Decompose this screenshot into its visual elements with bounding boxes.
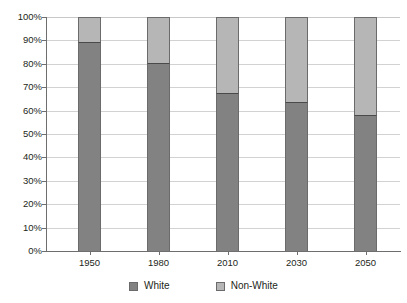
bar-group — [147, 17, 170, 251]
bar-group — [285, 17, 308, 251]
y-axis-label-70: 70% — [2, 82, 42, 92]
x-axis-line — [46, 251, 401, 252]
y-axis-label-40: 40% — [2, 153, 42, 163]
y-axis-label-60: 60% — [2, 106, 42, 116]
legend-swatch-icon-non-white — [216, 282, 225, 291]
legend-label-white: White — [144, 281, 170, 291]
bar-segment-white[interactable] — [216, 93, 239, 251]
y-axis-line — [46, 17, 47, 252]
legend-label-non-white: Non-White — [231, 281, 278, 291]
bar-group — [78, 17, 101, 251]
bars-layer — [46, 17, 400, 251]
legend-item-white[interactable]: White — [129, 281, 170, 291]
chart-container: 100% 90% 80% 70% 60% 50% 40% 30% 20% 10%… — [0, 0, 407, 303]
legend-swatch-icon-white — [129, 282, 138, 291]
x-tick-1950 — [90, 251, 91, 255]
bar-segment-non-white[interactable] — [78, 17, 101, 42]
y-axis-label-100: 100% — [2, 12, 42, 22]
x-axis-label-1950: 1950 — [55, 258, 125, 268]
x-tick-2030 — [297, 251, 298, 255]
x-tick-2010 — [228, 251, 229, 255]
bar-segment-non-white[interactable] — [216, 17, 239, 93]
bar-segment-white[interactable] — [354, 115, 377, 251]
y-axis-label-0: 0% — [2, 246, 42, 256]
y-axis-label-10: 10% — [2, 223, 42, 233]
bar-segment-white[interactable] — [147, 63, 170, 251]
y-axis-label-80: 80% — [2, 59, 42, 69]
x-tick-1980 — [159, 251, 160, 255]
x-axis-label-1980: 1980 — [124, 258, 194, 268]
y-axis-label-20: 20% — [2, 199, 42, 209]
legend-item-non-white[interactable]: Non-White — [216, 281, 278, 291]
bar-segment-white[interactable] — [285, 102, 308, 251]
x-axis-label-2010: 2010 — [193, 258, 263, 268]
x-tick-2050 — [366, 251, 367, 255]
chart-legend: White Non-White — [0, 281, 407, 291]
x-axis-label-2030: 2030 — [262, 258, 332, 268]
bar-group — [354, 17, 377, 251]
y-axis-labels: 100% 90% 80% 70% 60% 50% 40% 30% 20% 10%… — [0, 17, 42, 251]
plot-area — [46, 17, 400, 251]
bar-segment-non-white[interactable] — [147, 17, 170, 63]
x-axis-label-2050: 2050 — [331, 258, 401, 268]
bar-segment-white[interactable] — [78, 42, 101, 251]
y-axis-label-50: 50% — [2, 129, 42, 139]
bar-segment-non-white[interactable] — [285, 17, 308, 102]
y-axis-label-30: 30% — [2, 176, 42, 186]
y-axis-label-90: 90% — [2, 36, 42, 46]
bar-group — [216, 17, 239, 251]
bar-segment-non-white[interactable] — [354, 17, 377, 115]
